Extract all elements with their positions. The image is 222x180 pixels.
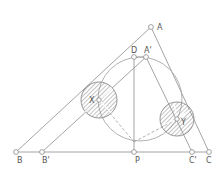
label-d: D: [131, 46, 137, 55]
point-x: [97, 98, 101, 102]
point-a: [149, 25, 154, 30]
point-y: [175, 117, 179, 121]
point-b-prime: [40, 150, 45, 155]
point-c-prime: [190, 150, 195, 155]
label-p: P: [135, 156, 140, 165]
point-b: [14, 150, 19, 155]
label-c: C: [206, 156, 212, 165]
label-b-prime: B': [42, 156, 50, 165]
label-a-prime: A': [144, 46, 152, 55]
circle-y-group: [160, 102, 194, 136]
point-c: [207, 150, 212, 155]
label-a: A: [157, 23, 163, 32]
label-c-prime: C': [189, 156, 197, 165]
point-d: [132, 55, 137, 60]
label-b: B: [17, 156, 23, 165]
point-a-prime: [144, 55, 149, 60]
circle-x-group: [81, 82, 117, 118]
geometry-diagram: A D A' B B' P C' C X Y: [0, 0, 222, 180]
label-x: X: [89, 96, 95, 105]
point-p: [132, 150, 137, 155]
label-y: Y: [180, 118, 186, 127]
